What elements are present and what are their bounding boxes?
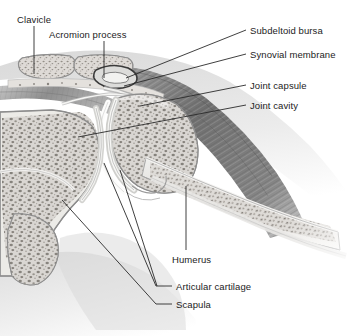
label-articular-cartilage: Articular cartilage [176, 281, 251, 292]
label-joint-capsule: Joint capsule [250, 80, 307, 91]
anatomy-figure: ClavicleAcromion processSubdeltoid bursa… [0, 0, 353, 336]
label-subdeltoid-bursa: Subdeltoid bursa [250, 25, 323, 36]
subdeltoid-bursa-sac [94, 65, 137, 88]
label-humerus: Humerus [172, 254, 211, 265]
label-synovial-membrane: Synovial membrane [250, 49, 336, 60]
label-joint-cavity: Joint cavity [250, 100, 298, 111]
label-acromion-process: Acromion process [49, 29, 127, 40]
label-clavicle: Clavicle [17, 14, 51, 25]
label-scapula: Scapula [176, 299, 211, 310]
